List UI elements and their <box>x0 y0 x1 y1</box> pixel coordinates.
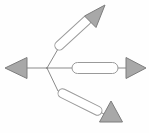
middle-right-branch-capsule[interactable] <box>72 63 118 74</box>
upper-right-branch-capsule[interactable] <box>53 14 93 52</box>
lower-right-branch-capsule[interactable] <box>57 87 104 116</box>
junction-point[interactable] <box>46 67 48 69</box>
lower-right-branch-stem <box>47 68 58 91</box>
upper-right-branch[interactable] <box>47 5 105 68</box>
middle-right-branch[interactable] <box>47 58 146 79</box>
diagram-canvas <box>0 0 149 133</box>
upper-right-branch-stem <box>47 49 58 68</box>
lower-right-branch[interactable] <box>47 68 123 122</box>
middle-right-branch-arrowhead <box>126 58 146 79</box>
arrow-branch-diagram <box>0 0 149 133</box>
left-branch-arrowhead <box>5 58 27 79</box>
lower-right-branch-arrowhead <box>100 101 123 122</box>
left-branch[interactable] <box>5 58 47 79</box>
